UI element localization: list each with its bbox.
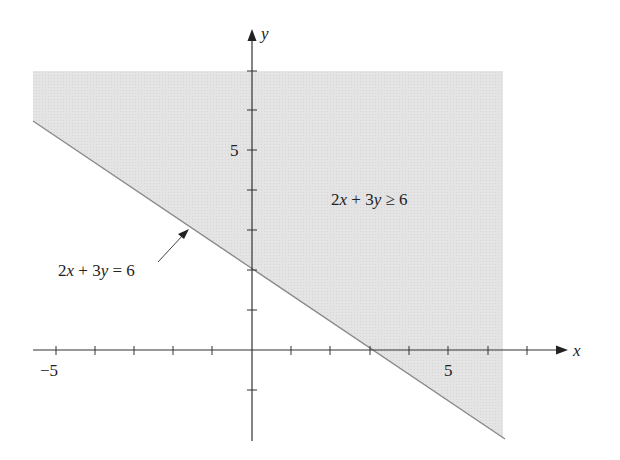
region-inequality-label: 2x + 3y ≥ 6 — [331, 190, 408, 209]
x-tick-label-5: 5 — [444, 361, 453, 380]
boundary-equation-label: 2x + 3y = 6 — [58, 261, 135, 280]
x-axis-label: x — [572, 341, 581, 360]
y-axis-label: y — [259, 24, 269, 43]
annotation-arrow-icon — [178, 229, 189, 239]
x-axis-arrow-icon — [556, 346, 568, 355]
y-tick-label-5: 5 — [230, 141, 239, 160]
shaded-solution-region — [33, 71, 503, 438]
inequality-graph: x −5 5 y 5 2x + 3y = 6 2x + 3y ≥ 6 — [0, 0, 620, 460]
annotation-pointer — [158, 234, 184, 262]
y-axis-arrow-icon — [248, 29, 257, 41]
x-tick-label-neg5: −5 — [40, 361, 58, 380]
boundary-line-annotation: 2x + 3y = 6 — [58, 229, 189, 280]
